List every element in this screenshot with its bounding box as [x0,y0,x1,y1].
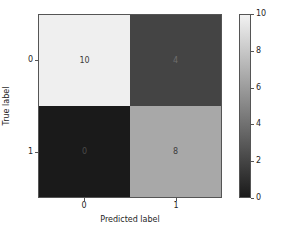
y-axis-label: True label [3,87,11,126]
colorbar-tick-mark-10 [251,14,254,15]
colorbar-tick-label-0: 0 [256,194,261,202]
matrix-cell-value: 4 [173,57,178,65]
colorbar-tick-mark-0 [251,198,254,199]
matrix-cell-true0-pred1: 4 [130,15,221,106]
colorbar [239,14,251,198]
x-axis-label: Predicted label [38,216,222,224]
matrix-cell-value: 10 [79,57,89,65]
colorbar-tick-mark-8 [251,51,254,52]
matrix-cell-true1-pred1: 8 [130,106,221,197]
colorbar-tick-label-2: 2 [256,157,261,165]
y-axis-label-wrapper: True label [0,14,14,198]
matrix-cell-true1-pred0: 0 [39,106,130,197]
y-tick-label-0: 0 [22,56,33,64]
colorbar-tick-label-10: 10 [256,10,266,18]
x-tick-label-0: 0 [72,202,96,210]
matrix-cell-value: 0 [82,148,87,156]
matrix-cell-value: 8 [173,148,178,156]
y-tick-mark-1 [35,152,38,153]
colorbar-tick-label-4: 4 [256,120,261,128]
matrix-cell-true0-pred0: 10 [39,15,130,106]
colorbar-gradient [240,15,250,197]
heatmap-plot-area: 10 4 0 8 [38,14,222,198]
colorbar-tick-mark-2 [251,161,254,162]
confusion-matrix-grid: 10 4 0 8 [39,15,221,197]
x-tick-label-1: 1 [164,202,188,210]
colorbar-tick-mark-4 [251,124,254,125]
colorbar-tick-mark-6 [251,88,254,89]
confusion-matrix-figure: 10 4 0 8 0 1 Predicted label 0 1 True la… [0,0,284,236]
y-tick-label-1: 1 [22,148,33,156]
colorbar-tick-label-8: 8 [256,47,261,55]
y-tick-mark-0 [35,60,38,61]
colorbar-tick-label-6: 6 [256,84,261,92]
